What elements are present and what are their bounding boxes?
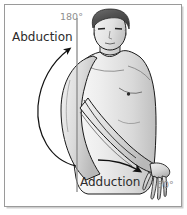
angle-50-label: 50° [157, 179, 174, 190]
shoulder-range-of-motion-illustration: Abduction Adduction 180° 50° [0, 0, 187, 215]
nipple-marker [127, 92, 130, 95]
right-eye [115, 29, 122, 30]
adduction-label: Adduction [80, 175, 140, 189]
anatomy-figure-panel: Abduction Adduction 180° 50° [0, 0, 187, 215]
left-eye [98, 29, 105, 30]
angle-180-label: 180° [60, 11, 83, 22]
abduction-label: Abduction [12, 30, 73, 44]
